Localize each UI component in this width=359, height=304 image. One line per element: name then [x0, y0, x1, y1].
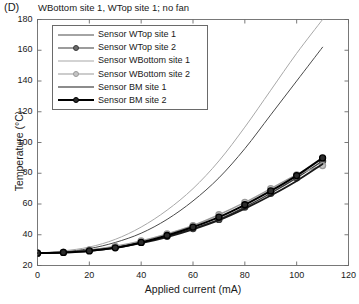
legend-label: Sensor BM site 1: [98, 83, 167, 92]
legend-item: Sensor BM site 2: [53, 94, 207, 107]
x-tick-label: 60: [181, 270, 205, 280]
legend-swatch-icon: [58, 29, 94, 41]
y-tick-label: 20: [11, 260, 33, 270]
legend-label: Sensor WBottom site 2: [98, 70, 190, 79]
series-line: [35, 163, 326, 257]
series-line: [35, 155, 326, 256]
y-tick-label: 180: [11, 14, 33, 24]
y-axis-title: Temperature (°C): [13, 81, 25, 221]
x-tick-label: 0: [26, 270, 50, 280]
legend-item: Sensor WTop site 1: [53, 28, 207, 41]
legend-item: Sensor WTop site 2: [53, 41, 207, 54]
legend-marker-icon: [73, 71, 79, 77]
legend-label: Sensor WTop site 1: [98, 30, 176, 39]
legend-item: Sensor BM site 1: [53, 81, 207, 94]
series-line: [35, 158, 326, 256]
x-tick-label: 120: [337, 270, 359, 280]
legend-swatch-icon: [58, 81, 94, 93]
legend-label: Sensor BM site 2: [98, 96, 167, 105]
y-tick-label: 160: [11, 44, 33, 54]
legend-swatch-icon: [58, 94, 94, 106]
legend-label: Sensor WBottom site 1: [98, 56, 190, 65]
legend-label: Sensor WTop site 2: [98, 43, 176, 52]
legend-marker-icon: [73, 97, 79, 103]
x-tick-label: 20: [77, 270, 101, 280]
legend-swatch-icon: [58, 42, 94, 54]
x-tick-label: 100: [285, 270, 309, 280]
x-axis-title: Applied current (mA): [37, 283, 349, 295]
figure-panel-d: (D) WBottom site 1, WTop site 1; no fan …: [0, 0, 359, 304]
legend-swatch-icon: [58, 68, 94, 80]
y-tick-label: 40: [11, 229, 33, 239]
x-tick-label: 40: [129, 270, 153, 280]
legend-item: Sensor WBottom site 1: [53, 54, 207, 67]
legend-marker-icon: [73, 45, 79, 51]
legend-swatch-icon: [58, 55, 94, 67]
series-line: [38, 164, 323, 253]
x-tick-label: 80: [233, 270, 257, 280]
legend-item: Sensor WBottom site 2: [53, 68, 207, 81]
legend: Sensor WTop site 1Sensor WTop site 2Sens…: [52, 25, 208, 110]
